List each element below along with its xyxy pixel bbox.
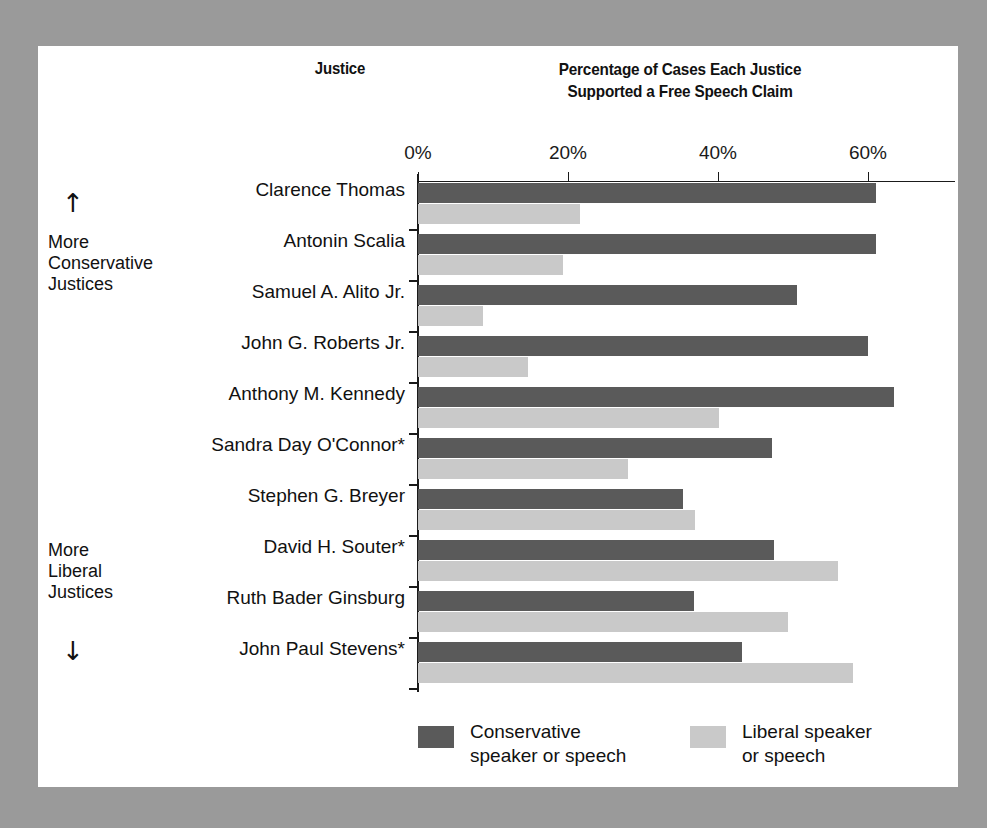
legend-label-conservative-line2: speaker or speech [470,744,626,768]
y-tick-mark [409,586,418,588]
bar-conservative [418,591,694,611]
bar-liberal [418,408,719,428]
category-label: John Paul Stevens* [55,638,405,660]
chart-legend: Conservative speaker or speech Liberal s… [0,720,987,790]
bar-liberal [418,357,528,377]
y-tick-mark [409,535,418,537]
bar-liberal [418,459,628,479]
y-tick-mark [409,229,418,231]
bar-liberal [418,663,853,683]
legend-label-liberal-line1: Liberal speaker [742,720,872,744]
bar-conservative [418,234,876,254]
more-conservative-line3: Justices [48,274,153,295]
legend-swatch-conservative [418,726,454,748]
more-conservative-line2: Conservative [48,253,153,274]
bar-conservative [418,183,876,203]
bar-conservative [418,540,774,560]
bar-conservative [418,642,742,662]
category-label: Clarence Thomas [55,179,405,201]
bar-conservative [418,336,868,356]
more-liberal-line3: Justices [48,582,113,603]
category-label: Stephen G. Breyer [55,485,405,507]
y-tick-mark [409,331,418,333]
legend-label-liberal-line2: or speech [742,744,872,768]
chart-page: Justice Percentage of Cases Each Justice… [0,0,987,828]
more-conservative-line1: More [48,232,153,253]
more-liberal-note: More Liberal Justices [48,540,113,603]
category-labels: Clarence ThomasAntonin ScaliaSamuel A. A… [50,0,405,828]
bar-liberal [418,306,483,326]
y-tick-mark [409,484,418,486]
bar-liberal [418,204,580,224]
bar-conservative [418,489,683,509]
category-label: John G. Roberts Jr. [55,332,405,354]
up-arrow-icon: ↑ [62,190,84,216]
y-tick-mark [409,433,418,435]
more-conservative-note: More Conservative Justices [48,232,153,295]
down-arrow-icon: ↓ [62,638,84,664]
bar-liberal [418,561,838,581]
legend-label-conservative: Conservative speaker or speech [470,720,626,768]
y-tick-mark [409,688,418,690]
bar-conservative [418,438,772,458]
bar-liberal [418,612,788,632]
legend-swatch-liberal [690,726,726,748]
y-tick-mark [409,637,418,639]
bar-liberal [418,510,695,530]
bar-conservative [418,285,797,305]
more-liberal-line2: Liberal [48,561,113,582]
category-label: Anthony M. Kennedy [55,383,405,405]
bar-liberal [418,255,563,275]
category-label: Sandra Day O'Connor* [55,434,405,456]
y-tick-mark [409,280,418,282]
bar-conservative [418,387,894,407]
legend-label-liberal: Liberal speaker or speech [742,720,872,768]
legend-label-conservative-line1: Conservative [470,720,626,744]
more-liberal-line1: More [48,540,113,561]
y-tick-mark [409,382,418,384]
